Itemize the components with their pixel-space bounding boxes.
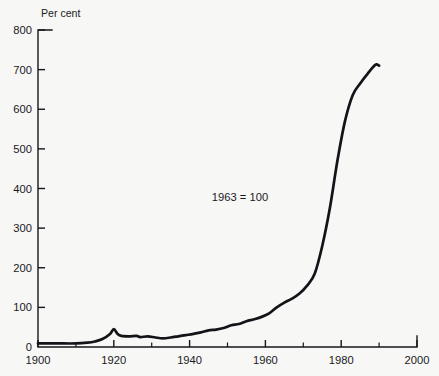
x-tick-label: 2000: [405, 354, 430, 366]
x-tick-label: 1980: [329, 354, 354, 366]
y-axis-ticks: [38, 30, 45, 307]
y-tick-label: 200: [13, 262, 32, 274]
x-tick-label: 1960: [253, 354, 278, 366]
series-group: [38, 64, 379, 343]
chart-container: 0100200300400500600700800 19001920194019…: [0, 0, 439, 376]
y-tick-label: 600: [13, 103, 32, 115]
x-tick-label: 1940: [177, 354, 202, 366]
y-tick-label: 100: [13, 301, 32, 313]
y-tick-label: 700: [13, 64, 32, 76]
x-tick-label: 1900: [26, 354, 51, 366]
data-line-index: [38, 64, 379, 343]
y-tick-label: 0: [26, 341, 32, 353]
y-axis-unit-label: Per cent: [41, 7, 81, 19]
base-year-annotation: 1963 = 100: [212, 191, 268, 203]
axis-frame: [38, 30, 417, 347]
x-tick-label: 1920: [101, 354, 126, 366]
y-tick-label: 500: [13, 143, 32, 155]
y-tick-label: 800: [13, 24, 32, 36]
line-chart: 0100200300400500600700800 19001920194019…: [0, 0, 439, 376]
y-tick-label: 400: [13, 183, 32, 195]
y-tick-label: 300: [13, 222, 32, 234]
y-axis-tick-labels: 0100200300400500600700800: [13, 24, 32, 353]
chart-axes: [38, 30, 417, 347]
x-axis-tick-labels: 190019201940196019802000: [26, 354, 430, 366]
